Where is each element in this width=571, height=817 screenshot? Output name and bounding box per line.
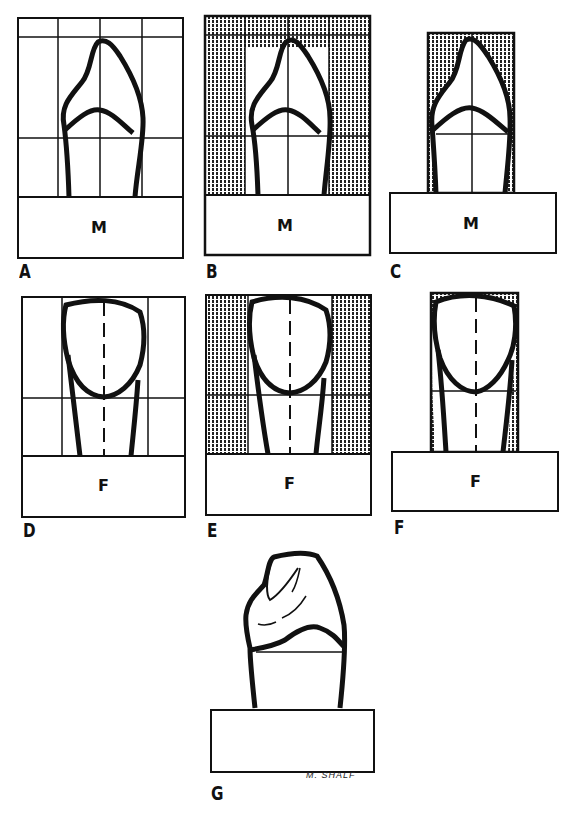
panel-d-label: D: [23, 519, 36, 541]
panel-c-view-label: M: [463, 214, 479, 233]
panel-g-label: G: [211, 782, 223, 804]
panel-a-label: A: [19, 260, 31, 282]
panel-e-view-label: F: [284, 474, 295, 493]
panel-c-label: C: [390, 260, 401, 282]
panel-e-label: E: [207, 519, 217, 541]
panel-g: [211, 550, 374, 772]
tooth-carving-diagram: M M M F F F M. SHALF: [0, 0, 571, 817]
panel-d-view-label: F: [98, 476, 109, 495]
artist-signature: M. SHALF: [306, 770, 356, 780]
panel-b-view-label: M: [277, 216, 293, 235]
panel-f-view-label: F: [470, 472, 481, 491]
panel-f-label: F: [394, 516, 404, 538]
panel-b-label: B: [206, 260, 218, 282]
panel-a-view-label: M: [91, 218, 107, 237]
